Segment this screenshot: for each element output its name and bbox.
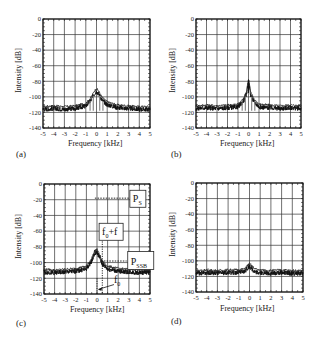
x-axis-label: Frequency [kHz] [220,304,274,313]
y-axis-label: Intensity [dB] [168,205,177,265]
x-tick-label: -5 [193,294,198,301]
y-tick-label: -120 [182,273,194,280]
panel-label: (d) [171,316,182,326]
y-tick-label: -80 [185,242,194,249]
x-tick-label: 0 [248,294,251,301]
x-tick-label: 1 [259,294,262,301]
x-tick-label: -3 [215,294,220,301]
y-tick-label: -100 [182,257,194,264]
x-tick-label: 4 [291,294,295,301]
chart-d-plot: -5-4-3-2-10123450-20-40-60-80-100-120-14… [0,0,322,339]
grid [196,183,303,292]
y-tick-label: -140 [182,288,194,295]
panel-d: -5-4-3-2-10123450-20-40-60-80-100-120-14… [0,0,322,339]
x-tick-label: -1 [236,294,241,301]
x-tick-label: -2 [225,294,230,301]
x-tick-label: 3 [280,294,283,301]
y-tick-label: 0 [191,179,194,186]
x-tick-label: 2 [269,294,272,301]
x-tick-label: 5 [301,294,304,301]
x-tick-label: -4 [204,294,210,301]
y-tick-label: -20 [185,195,194,202]
y-tick-label: -60 [185,226,194,233]
y-tick-label: -40 [185,210,194,217]
